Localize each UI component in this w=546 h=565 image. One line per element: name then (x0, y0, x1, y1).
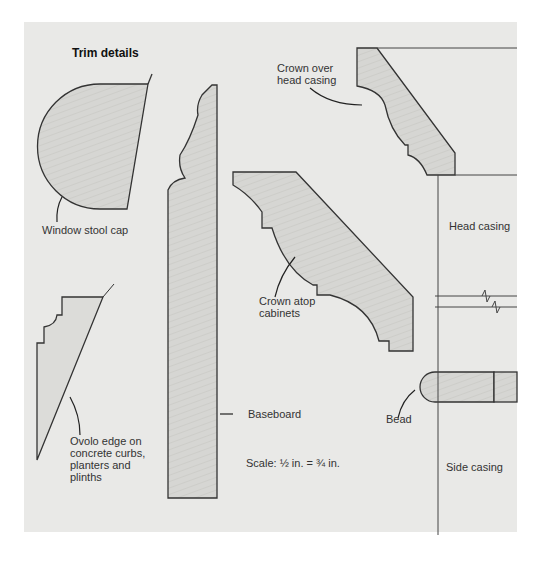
label-head-casing: Head casing (449, 220, 510, 232)
label-crown-atop-cabinets: Crown atop cabinets (259, 295, 315, 319)
baseboard-profile (168, 85, 217, 498)
label-window-stool-cap: Window stool cap (42, 224, 128, 236)
label-ovolo-edge: Ovolo edge on concrete curbs, planters a… (70, 435, 145, 483)
diagram-title: Trim details (72, 46, 139, 60)
window-stool-cap-profile (38, 84, 149, 209)
label-baseboard: Baseboard (248, 408, 301, 420)
label-bead: Bead (386, 413, 412, 425)
label-crown-over-head-casing: Crown over head casing (277, 62, 336, 86)
bead-profile (420, 372, 494, 402)
crown-over-head-casing-profile (357, 48, 455, 175)
crown-atop-cabinets-profile (233, 172, 413, 351)
label-side-casing: Side casing (446, 461, 503, 473)
label-scale: Scale: ½ in. = ¾ in. (246, 457, 340, 469)
